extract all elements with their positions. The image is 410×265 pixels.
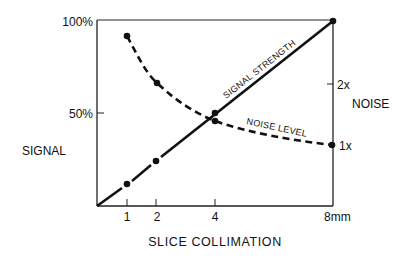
- noise-level-label: NOISE LEVEL: [246, 116, 309, 139]
- x-tick-label-4: 4: [212, 210, 219, 224]
- x-tick-label-2: 2: [154, 210, 161, 224]
- y-tick-label-50: 50%: [69, 107, 93, 121]
- signal-point-4mm: [212, 110, 219, 117]
- y2-axis-title: NOISE: [352, 97, 389, 111]
- signal-strength-label: SIGNAL STRENGTH: [221, 38, 297, 101]
- signal-point-1mm: [124, 181, 131, 188]
- noise-point-8mm: [329, 142, 336, 149]
- y-axis-title: SIGNAL: [22, 144, 66, 158]
- x-axis-title: SLICE COLLIMATION: [148, 235, 282, 249]
- signal-point-2mm: [153, 158, 160, 165]
- noise-point-1mm: [124, 33, 131, 40]
- x-tick-label-8mm: 8mm: [324, 210, 351, 224]
- x-tick-label-1: 1: [124, 210, 131, 224]
- y2-tick-label-2x: 2x: [337, 78, 350, 92]
- signal-strength-series: [97, 18, 336, 206]
- chart: 100% 50% 2x 1x 1 2 4 8mm SIGNAL NOISE SL…: [0, 0, 410, 265]
- noise-point-2mm: [154, 80, 161, 87]
- noise-point-4mm: [212, 118, 219, 125]
- y-tick-label-100: 100%: [62, 15, 93, 29]
- y2-tick-label-1x: 1x: [339, 139, 352, 153]
- signal-point-8mm: [330, 18, 337, 25]
